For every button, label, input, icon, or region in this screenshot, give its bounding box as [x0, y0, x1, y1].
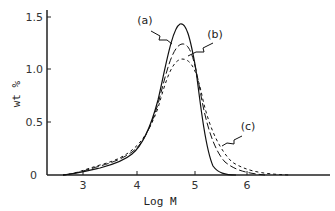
- y-tick-0: 0: [30, 169, 37, 182]
- leader-a: [151, 31, 172, 44]
- label-b: (b): [207, 28, 223, 41]
- curve-c: [63, 59, 290, 175]
- label-c: (c): [241, 120, 256, 133]
- x-tick-3: 3: [80, 179, 87, 192]
- x-tick-4: 4: [134, 179, 141, 192]
- curve-b: [63, 44, 265, 175]
- y-tick-1-0: 1.0: [26, 63, 44, 76]
- gpc-chart: 0 0.5 1.0 1.5 3 4 5 6 Log M wt % (a) (b)…: [0, 0, 335, 211]
- curve-a: [63, 24, 236, 175]
- leader-c: [222, 136, 242, 146]
- x-tick-6: 6: [244, 179, 251, 192]
- y-axis-title: wt %: [10, 80, 23, 107]
- x-tick-5: 5: [192, 179, 199, 192]
- y-tick-1-5: 1.5: [26, 11, 44, 24]
- x-axis-title: Log M: [143, 195, 176, 208]
- y-tick-0-5: 0.5: [26, 116, 44, 129]
- label-a: (a): [137, 14, 152, 27]
